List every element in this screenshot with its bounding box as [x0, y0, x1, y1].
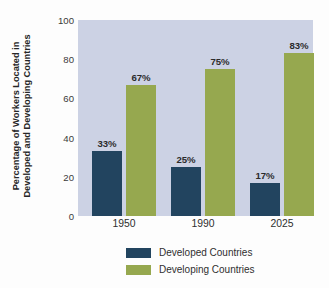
- bar-1950-developed[interactable]: 33%: [92, 151, 122, 216]
- y-axis-tick-label: 100: [46, 15, 74, 26]
- bar-2025-developing[interactable]: 83%: [284, 53, 314, 216]
- bar-value-label: 67%: [131, 72, 150, 83]
- y-axis-tick-label: 80: [46, 54, 74, 65]
- x-axis-tick-label-1990: 1990: [168, 218, 238, 229]
- bar-group-2025: 17%83%: [250, 20, 314, 216]
- y-axis-tick-label: 0: [46, 211, 74, 222]
- y-axis-tick-label: 40: [46, 132, 74, 143]
- legend-item-developed[interactable]: Developed Countries: [126, 245, 306, 260]
- legend-label: Developed Countries: [159, 247, 252, 258]
- y-axis-title: Percentage of Workers Located in Develop…: [0, 0, 44, 232]
- y-axis-tick-label: 20: [46, 171, 74, 182]
- chart-figure: Percentage of Workers Located in Develop…: [0, 0, 329, 288]
- x-axis-tick-labels: 195019902025: [78, 218, 313, 236]
- y-axis-title-line-1: Percentage of Workers Located in: [11, 42, 22, 191]
- x-axis-tick-label-1950: 1950: [89, 218, 159, 229]
- y-axis-title-line-2: Developed and Developing Countries: [22, 34, 33, 197]
- bar-value-label: 75%: [210, 56, 229, 67]
- legend-swatch-icon: [126, 265, 151, 275]
- plot-area: 33%67%25%75%17%83%: [78, 20, 313, 216]
- x-axis-tick-label-2025: 2025: [247, 218, 317, 229]
- bar-value-label: 17%: [255, 170, 274, 181]
- bar-group-1950: 33%67%: [92, 20, 156, 216]
- chart-legend: Developed CountriesDeveloping Countries: [126, 245, 306, 279]
- bar-1990-developing[interactable]: 75%: [205, 69, 235, 216]
- bar-2025-developed[interactable]: 17%: [250, 183, 280, 216]
- legend-item-developing[interactable]: Developing Countries: [126, 262, 306, 277]
- legend-swatch-icon: [126, 248, 151, 258]
- legend-label: Developing Countries: [159, 264, 255, 275]
- y-axis-tick-labels: 020406080100: [46, 0, 74, 232]
- bar-1990-developed[interactable]: 25%: [171, 167, 201, 216]
- y-axis-title-rotated: Percentage of Workers Located in Develop…: [5, 15, 39, 217]
- y-axis-tick-label: 60: [46, 93, 74, 104]
- bar-1950-developing[interactable]: 67%: [126, 85, 156, 216]
- bar-value-label: 33%: [97, 138, 116, 149]
- bar-value-label: 25%: [176, 154, 195, 165]
- bar-group-1990: 25%75%: [171, 20, 235, 216]
- bar-value-label: 83%: [289, 40, 308, 51]
